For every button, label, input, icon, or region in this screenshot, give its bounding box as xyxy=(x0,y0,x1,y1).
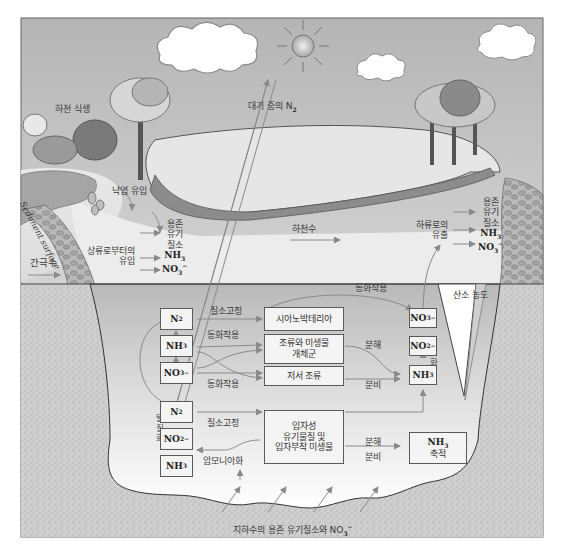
downstream-export-line2: 유출 xyxy=(416,230,448,240)
box-particulate-line2: 유기물질 및 xyxy=(283,432,326,443)
box-algae-microbes-line1: 조류와 미생물 xyxy=(279,338,330,349)
box-particulate-line1: 입자성 xyxy=(292,421,316,432)
box-no2-right: NO2− xyxy=(409,336,437,356)
outflow-species-dissolved: 용존 xyxy=(478,197,503,207)
groundwater-input-sup: − xyxy=(348,523,353,530)
inflow-species-nitrogen: 질소 xyxy=(162,240,187,250)
oxygen-concentration-label: 산소 농도 xyxy=(453,290,488,300)
n-fixation-label-2: 질소고정 xyxy=(207,418,239,428)
inflow-species-list: 용존 유기 질소 NH3 NO3− xyxy=(162,219,187,276)
box-benthic-algae: 저서 조류 xyxy=(264,366,344,386)
assimilation-top-label: 동화작용 xyxy=(355,283,387,293)
assimilation-label-2: 동화작용 xyxy=(207,379,239,389)
inflow-species-dissolved: 용존 xyxy=(162,219,187,229)
box-algae-microbes: 조류와 미생물 개체군 xyxy=(264,334,344,364)
groundwater-input-sub: 3 xyxy=(343,530,347,537)
excretion-label-2: 분비 xyxy=(365,452,381,462)
stream-water-label: 하천수 xyxy=(292,224,316,234)
box-particulate-line3: 입자부착 미생물 xyxy=(275,442,334,453)
downstream-export-line1: 하류로의 xyxy=(416,220,448,230)
nitrogen-cycle-diagram: 하천 식생 대기 중의 N2 낙엽 유입 Sediment surface 용존… xyxy=(0,0,564,559)
atmospheric-n2-label: 대기 중의 N2 xyxy=(248,101,297,114)
box-nh3-storage-label: 축적 xyxy=(430,449,446,460)
riparian-vegetation-label: 하천 식생 xyxy=(55,104,90,114)
box-particulate-organic-matter: 입자성 유기물질 및 입자부착 미생물 xyxy=(264,410,344,464)
decomposition-label-2: 분해 xyxy=(365,437,381,447)
box-nh3-bottom: NH3 xyxy=(160,455,193,477)
litter-input-label: 낙엽 유입 xyxy=(112,186,147,196)
sun-icon xyxy=(277,20,329,72)
outflow-species-no3: NO3− xyxy=(478,241,503,255)
upstream-input-line2: 유입 xyxy=(87,256,135,266)
diagram-artwork xyxy=(0,0,564,559)
box-nh3-top: NH3 xyxy=(160,335,193,357)
atmospheric-n2-sub: 2 xyxy=(292,106,296,113)
downstream-export-label: 하류로의 유출 xyxy=(416,220,448,241)
inflow-species-organic: 유기 xyxy=(162,229,187,239)
box-n2-top: N2 xyxy=(160,308,193,330)
decomposition-label-1: 분해 xyxy=(365,340,381,350)
outflow-species-list: 용존 유기 질소 NH3 NO3− xyxy=(478,197,503,254)
box-nh3-storage-formula: NH3 xyxy=(428,437,449,449)
box-nh3-right: NH3 xyxy=(409,365,437,385)
box-no3-left: NO3− xyxy=(160,362,193,384)
box-nh3-storage: NH3 축적 xyxy=(409,432,467,464)
box-no2-left: NO2− xyxy=(160,428,193,450)
groundwater-input-label: 지하수의 용존 유기질소와 NO3− xyxy=(233,524,353,538)
inflow-species-no3: NO3− xyxy=(162,263,187,277)
groundwater-input-text: 지하수의 용존 유기질소와 NO xyxy=(233,525,343,535)
outflow-species-organic: 유기 xyxy=(478,207,503,217)
n-fixation-label-1: 질소고정 xyxy=(210,306,242,316)
box-n2-bottom: N2 xyxy=(160,401,193,423)
outflow-species-nitrogen: 질소 xyxy=(478,218,503,228)
atmospheric-n2-text: 대기 중의 N xyxy=(248,101,292,111)
assimilation-label-1: 동화작용 xyxy=(207,330,239,340)
excretion-label-1: 분비 xyxy=(365,380,381,390)
upstream-input-line1: 상류로부터의 xyxy=(87,246,135,256)
box-cyanobacteria: 시아노박테리아 xyxy=(264,307,344,331)
upstream-input-label: 상류로부터의 유입 xyxy=(87,246,135,267)
ammonification-label: 암모니아화 xyxy=(203,456,243,466)
box-algae-microbes-line2: 개체군 xyxy=(292,349,316,360)
box-no3-right: NO3− xyxy=(409,308,437,328)
interstitial-water-label: 간극수 xyxy=(30,258,57,269)
